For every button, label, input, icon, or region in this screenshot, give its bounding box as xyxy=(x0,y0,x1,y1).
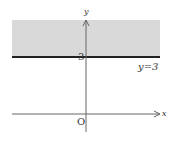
line-equation-label: y=3 xyxy=(138,62,158,72)
x-axis-label: x xyxy=(162,110,167,118)
graph-canvas xyxy=(0,0,173,152)
origin-label: O xyxy=(77,117,85,127)
tick-label-3: 3 xyxy=(78,52,84,62)
y-axis-label: y xyxy=(84,8,89,16)
